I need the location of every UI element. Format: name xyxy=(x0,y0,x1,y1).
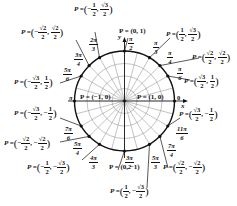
numerator: 3π xyxy=(125,155,134,163)
point-label-one-zero: P = (1, 0) xyxy=(137,94,164,101)
p-equals: P = xyxy=(27,163,37,171)
denominator: 2 xyxy=(195,115,198,122)
angle-label-4pi-3: 4π3 xyxy=(89,155,98,170)
denominator: 3 xyxy=(154,48,157,55)
comma: , xyxy=(30,139,32,147)
denominator: 2 xyxy=(45,83,48,90)
coord-label-3pi-2: P = (0, −1) xyxy=(109,164,140,171)
numerator: √2 xyxy=(51,25,60,33)
angle-label-pi-3: π3 xyxy=(153,40,159,55)
coord-label-5pi-4: P =(−√22, −√22) xyxy=(4,136,50,151)
numerator: π xyxy=(167,50,173,58)
angle-label-5pi-3: 5π3 xyxy=(151,155,160,170)
denominator: 2 xyxy=(41,33,44,40)
comma: , xyxy=(201,110,203,118)
denominator: 2 xyxy=(179,168,182,175)
denominator: 2 xyxy=(129,44,132,51)
coord-label-5pi-3: P =(12, −√32) xyxy=(110,184,149,199)
denominator: 2 xyxy=(180,35,183,42)
comma: , xyxy=(185,30,187,38)
comma: , xyxy=(97,5,99,13)
paren-right: ) xyxy=(214,108,218,120)
numerator: √2 xyxy=(176,160,185,168)
paren-right: ) xyxy=(197,28,201,40)
coord-label-pi-3: P =(12, √32) xyxy=(166,27,201,42)
denominator: 4 xyxy=(76,149,79,156)
coord-label-3pi-4: P =(−√22, √22) xyxy=(21,25,63,40)
denominator: 2 xyxy=(60,168,63,175)
paren-right: ) xyxy=(215,75,219,87)
denominator: 2 xyxy=(211,82,214,89)
coord-label-11pi-6: P =(√32, −12) xyxy=(179,107,218,122)
numerator: √2 xyxy=(38,136,47,144)
comma: , xyxy=(47,28,49,36)
comma: , xyxy=(129,187,131,195)
denominator: 2 xyxy=(200,82,203,89)
paren-right: ) xyxy=(227,51,231,63)
coord-label-pi-4: P =(√22, √22) xyxy=(192,50,230,65)
denominator: 3 xyxy=(154,163,157,170)
angle-label-pi-2: π2 xyxy=(128,36,134,51)
p-equals: P = xyxy=(74,5,84,13)
denominator: 2 xyxy=(34,83,37,90)
comma: , xyxy=(206,77,208,85)
numerator: √2 xyxy=(38,25,47,33)
angle-label-7pi-6: 7π6 xyxy=(64,126,73,141)
angle-label-5pi-4: 5π4 xyxy=(73,141,82,156)
numerator: √3 xyxy=(136,184,145,192)
angle-label-7pi-4: 7π4 xyxy=(167,143,176,158)
denominator: 2 xyxy=(208,58,211,65)
paren-right: ) xyxy=(145,185,149,197)
p-equals: P = xyxy=(14,109,24,117)
denominator: 6 xyxy=(180,134,183,141)
comma: , xyxy=(50,163,52,171)
p-equals: P = xyxy=(4,139,14,147)
denominator: 2 xyxy=(103,10,106,17)
denominator: 2 xyxy=(24,144,27,151)
numerator: 3π xyxy=(74,52,83,60)
denominator: 2 xyxy=(196,168,199,175)
denominator: 3 xyxy=(92,45,95,52)
p-equals: P = xyxy=(184,77,194,85)
numerator: 7π xyxy=(167,143,176,151)
numerator: √3 xyxy=(31,106,40,114)
numerator: π xyxy=(128,36,134,44)
numerator: √3 xyxy=(100,2,109,10)
coord-label-pi-6: P =(√32, 12) xyxy=(184,74,219,89)
denominator: 6 xyxy=(66,75,69,82)
numerator: √3 xyxy=(197,74,206,82)
p-equals: P = xyxy=(179,110,189,118)
denominator: 2 xyxy=(191,35,194,42)
p-equals: P = xyxy=(163,163,173,171)
angle-label-pi: π xyxy=(69,94,73,101)
comma: , xyxy=(185,163,187,171)
numerator: 5π xyxy=(73,141,82,149)
denominator: 2 xyxy=(45,168,48,175)
paren-right: ) xyxy=(49,76,53,88)
paren-right: ) xyxy=(60,26,64,38)
denominator: 2 xyxy=(221,58,224,65)
denominator: 6 xyxy=(178,74,181,81)
numerator: √2 xyxy=(193,160,202,168)
denominator: 2 xyxy=(54,33,57,40)
denominator: 2 xyxy=(49,114,52,121)
numerator: √3 xyxy=(188,27,197,35)
denominator: 2 xyxy=(124,192,127,199)
numerator: 4π xyxy=(89,155,98,163)
numerator: 2π xyxy=(89,37,98,45)
coord-label-pi-2: P = (0, 1) xyxy=(119,28,146,35)
paren-right: ) xyxy=(47,137,51,149)
numerator: √2 xyxy=(218,50,227,58)
angle-label-2pi-3: 2π3 xyxy=(89,37,98,52)
denominator: 3 xyxy=(92,163,95,170)
numerator: √2 xyxy=(205,50,214,58)
y-axis-arrow-icon xyxy=(123,37,127,42)
numerator: √3 xyxy=(192,107,201,115)
point-label-neg-one-zero: P = (−1, 0) xyxy=(80,94,111,101)
coord-label-5pi-6: P =(−√32, 12) xyxy=(14,75,53,90)
angle-label-3pi-4: 3π4 xyxy=(74,52,83,67)
coord-label-7pi-4: P =(√22, −√22) xyxy=(163,160,205,175)
coord-label-4pi-3: P =(−12, −√32) xyxy=(27,160,70,175)
paren-right: ) xyxy=(66,161,70,173)
p-equals: P = xyxy=(110,187,120,195)
